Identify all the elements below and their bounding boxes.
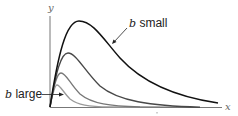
chart-figure: y x b small b large — [0, 0, 238, 116]
b-large-label: b large — [5, 87, 42, 101]
b-small-arrow — [114, 28, 127, 42]
b-large-arrowhead-icon — [59, 93, 64, 97]
b-small-label: b small — [129, 16, 167, 30]
curve-b-smallest — [50, 21, 218, 107]
curve-b-medium-small — [50, 53, 200, 107]
y-axis-label: y — [47, 2, 54, 13]
x-axis-label: x — [225, 101, 231, 112]
